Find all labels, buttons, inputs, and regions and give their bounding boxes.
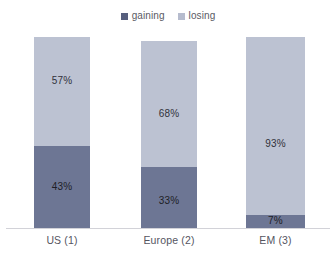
plot-area: 57% 43% US (1) 68% 33% Europe (2) [0, 0, 336, 259]
x-axis-baseline [6, 228, 330, 229]
bar-segment-losing-europe[interactable]: 68% [141, 41, 197, 167]
bar-group-us: 57% 43% [34, 37, 90, 228]
category-label-em: EM (3) [246, 234, 305, 246]
bar-group-europe: 68% 33% [141, 41, 197, 228]
bar-value-label-gaining-em: 7% [268, 216, 283, 226]
bar-segment-losing-us[interactable]: 57% [34, 37, 90, 146]
stacked-bar-em[interactable]: 93% 7% [246, 37, 305, 228]
stacked-bar-chart: gaining losing 57% 43% US (1) [0, 0, 336, 259]
category-label-europe: Europe (2) [136, 234, 202, 246]
stacked-bar-europe[interactable]: 68% 33% [141, 41, 197, 228]
bar-value-label-losing-europe: 68% [159, 109, 180, 119]
category-label-us: US (1) [34, 234, 90, 246]
bar-value-label-gaining-us: 43% [52, 182, 73, 192]
bar-value-label-losing-em: 93% [265, 139, 286, 149]
bar-group-em: 93% 7% [246, 37, 305, 228]
bar-segment-gaining-europe[interactable]: 33% [141, 167, 197, 228]
bar-segment-losing-em[interactable]: 93% [246, 37, 305, 215]
bar-segment-gaining-us[interactable]: 43% [34, 146, 90, 228]
stacked-bar-us[interactable]: 57% 43% [34, 37, 90, 228]
bar-value-label-gaining-europe: 33% [159, 196, 180, 206]
bar-value-label-losing-us: 57% [52, 76, 73, 86]
bar-segment-gaining-em[interactable]: 7% [246, 215, 305, 228]
